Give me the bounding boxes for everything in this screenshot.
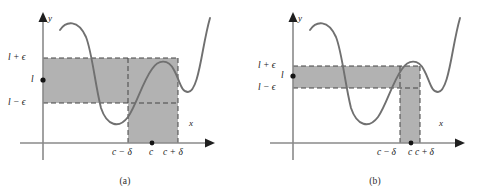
y-axis-arrow-b: [289, 12, 298, 22]
panel-b-caption: (b): [250, 176, 500, 186]
y-axis-label-a: y: [48, 13, 52, 23]
x-axis-arrow-a: [205, 139, 215, 148]
y-tick-label-l-minus-epsilon-b: l − ϵ: [258, 82, 276, 92]
y-tick-label-l-a: l: [31, 74, 34, 84]
limit-definition-figure: y x l + ϵ l l − ϵ c − δ c c + δ (a): [0, 0, 500, 196]
x-tick-label-c-minus-delta-a: c − δ: [112, 147, 132, 157]
y-tick-label-l-plus-epsilon-a: l + ϵ: [8, 52, 26, 62]
panel-b-plot: [250, 0, 500, 196]
panel-a-caption: (a): [0, 176, 250, 186]
x-axis-label-b: x: [439, 118, 443, 128]
y-tick-label-l-b: l: [281, 70, 284, 80]
x-tick-label-c-a: c: [149, 147, 153, 157]
y-tick-label-l-minus-epsilon-a: l − ϵ: [8, 97, 26, 107]
y-axis-arrow-a: [39, 12, 48, 22]
y-tick-label-l-plus-epsilon-b: l + ϵ: [258, 60, 276, 70]
panel-a-plot: [0, 0, 250, 196]
panel-a: y x l + ϵ l l − ϵ c − δ c c + δ (a): [0, 0, 250, 196]
y-axis-label-b: y: [298, 13, 302, 23]
x-tick-label-c-plus-delta-b: c + δ: [415, 147, 434, 157]
x-tick-label-c-b: c: [408, 147, 412, 157]
x-axis-label-a: x: [189, 118, 193, 128]
point-c-a: [150, 141, 155, 146]
x-tick-label-c-plus-delta-a: c + δ: [163, 147, 183, 157]
point-l-a: [40, 77, 45, 82]
panel-b: y x l + ϵ l l − ϵ c − δ c c + δ (b): [250, 0, 500, 196]
x-axis-arrow-b: [455, 139, 465, 148]
point-c-b: [409, 141, 414, 146]
point-l-b: [290, 73, 295, 78]
delta-band-shading-b: [400, 66, 420, 143]
x-tick-label-c-minus-delta-b: c − δ: [377, 147, 396, 157]
